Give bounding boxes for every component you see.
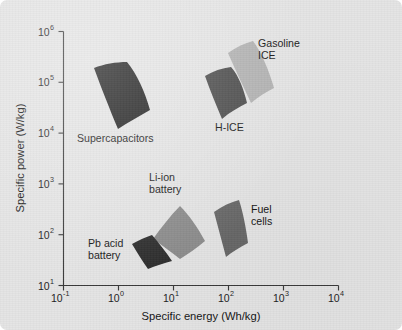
x-axis-ticks: [64, 286, 339, 291]
axes-group: 10 1 10 2 10 3 10 4 10 5 10 6: [14, 23, 344, 322]
x-tick-exp-1e3: 3: [285, 289, 289, 298]
y-tick-label-1e1: 10: [38, 280, 50, 292]
x-axis-tick-labels: 10 -1 10 0 10 1 10 2 10 3 10 4: [51, 289, 344, 304]
x-tick-exp-1e1: 1: [175, 289, 179, 298]
y-axis-tick-labels: 10 1 10 2 10 3 10 4 10 5 10 6: [38, 23, 54, 292]
y-tick-exp-1e1: 1: [50, 277, 54, 286]
y-axis-title: Specific power (W/kg): [14, 103, 26, 212]
x-tick-label-1e0: 10: [108, 292, 120, 304]
y-axis-ticks: [59, 32, 64, 286]
x-tick-label-1e-1: 10: [51, 292, 63, 304]
ragone-plot-figure: 10 1 10 2 10 3 10 4 10 5 10 6: [0, 0, 402, 330]
data-regions-group: [94, 41, 274, 269]
x-tick-label-1e2: 10: [218, 292, 230, 304]
region-label-fuel-cells-line1: Fuel: [251, 203, 272, 215]
region-label-supercapacitors: Supercapacitors: [77, 132, 154, 144]
y-tick-label-1e6: 10: [38, 26, 50, 38]
region-label-fuel-cells-line2: cells: [251, 215, 272, 227]
region-label-gasoline-ice-line2: ICE: [258, 49, 276, 61]
x-tick-exp-1e4: 4: [340, 289, 344, 298]
region-label-pb-acid-battery-line2: battery: [88, 249, 121, 261]
region-supercapacitors: [94, 62, 150, 129]
region-fuel-cells: [214, 200, 248, 257]
y-tick-label-1e2: 10: [38, 229, 50, 241]
x-tick-exp-1e2: 2: [230, 289, 234, 298]
region-label-pb-acid-battery-line1: Pb acid: [88, 237, 123, 249]
region-label-h-ice: H-ICE: [215, 121, 244, 133]
y-tick-label-1e3: 10: [38, 178, 50, 190]
region-label-li-ion-battery-line2: battery: [149, 183, 182, 195]
x-axis-title: Specific energy (Wh/kg): [142, 310, 261, 322]
region-label-gasoline-ice-line1: Gasoline: [258, 37, 300, 49]
x-tick-label-1e1: 10: [163, 292, 175, 304]
x-tick-exp-1e0: 0: [120, 289, 124, 298]
y-tick-exp-1e6: 6: [50, 23, 54, 32]
y-tick-exp-1e3: 3: [50, 175, 54, 184]
y-tick-exp-1e2: 2: [50, 226, 54, 235]
plot-canvas: 10 1 10 2 10 3 10 4 10 5 10 6: [0, 0, 402, 330]
x-tick-label-1e4: 10: [328, 292, 340, 304]
y-tick-exp-1e5: 5: [50, 73, 54, 82]
y-tick-label-1e4: 10: [38, 127, 50, 139]
region-label-li-ion-battery-line1: Li-ion: [149, 171, 175, 183]
y-tick-label-1e5: 10: [38, 76, 50, 88]
y-tick-exp-1e4: 4: [50, 124, 54, 133]
x-tick-exp-1e-1: -1: [63, 289, 69, 298]
x-tick-label-1e3: 10: [273, 292, 285, 304]
